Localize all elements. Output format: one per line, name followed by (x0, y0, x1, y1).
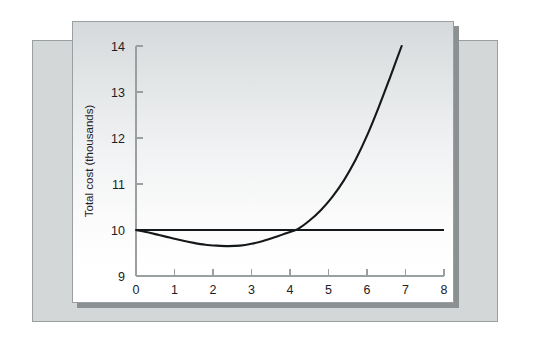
x-tick-label-2: 2 (210, 283, 217, 297)
y-axis-title: Total cost (thousands) (83, 105, 95, 218)
x-tick-label-0: 0 (133, 283, 140, 297)
x-tick-label-8: 8 (441, 283, 448, 297)
x-tick-label-4: 4 (287, 283, 294, 297)
x-tick-label-7: 7 (402, 283, 409, 297)
y-tick-label-10: 10 (111, 224, 125, 238)
x-tick-label-5: 5 (325, 283, 332, 297)
y-tick-label-9: 9 (118, 270, 125, 284)
y-tick-label-13: 13 (111, 86, 125, 100)
figure-canvas: 91011121314012345678Age to replace in ye… (0, 0, 534, 362)
y-tick-label-14: 14 (111, 40, 125, 54)
series-curve-0 (136, 46, 402, 246)
y-tick-label-12: 12 (111, 132, 125, 146)
x-tick-label-3: 3 (248, 283, 255, 297)
main-panel: 91011121314012345678Age to replace in ye… (72, 21, 454, 303)
line-chart: 91011121314012345678Age to replace in ye… (73, 22, 453, 302)
x-tick-label-1: 1 (171, 283, 178, 297)
y-tick-label-11: 11 (112, 178, 125, 192)
x-tick-label-6: 6 (364, 283, 371, 297)
